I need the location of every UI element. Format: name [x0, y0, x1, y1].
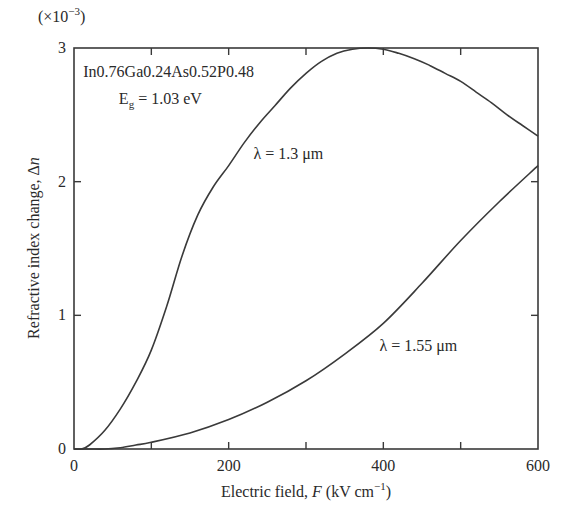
y-tick-label: 3	[58, 39, 66, 56]
series-label-1-55um: λ = 1.55 μm	[379, 337, 457, 355]
y-multiplier-label: (×10−3)	[38, 5, 85, 26]
x-tick-label: 0	[70, 457, 78, 474]
x-tick-label: 400	[371, 457, 395, 474]
y-tick-label: 0	[58, 440, 66, 457]
series-curve-0	[74, 48, 538, 449]
series-curve-1	[74, 166, 538, 449]
axis-ticks	[74, 48, 538, 449]
bandgap-annotation: Eg = 1.03 eV	[119, 90, 202, 110]
plot-frame	[74, 48, 538, 449]
x-tick-label: 600	[526, 457, 550, 474]
x-tick-label: 200	[217, 457, 241, 474]
y-tick-label: 2	[58, 173, 66, 190]
refractive-index-chart: 02004006000123 (×10−3) Electric field, F…	[0, 0, 574, 526]
data-curves	[74, 48, 538, 449]
series-label-1-3um: λ = 1.3 μm	[253, 145, 323, 163]
y-axis-title: Refractive index change, Δn	[25, 157, 43, 339]
x-axis-title: Electric field, F (kV cm−1)	[221, 480, 391, 501]
plot-area-border	[74, 48, 538, 449]
y-tick-label: 1	[58, 306, 66, 323]
material-annotation: In0.76Ga0.24As0.52P0.48	[83, 63, 254, 80]
